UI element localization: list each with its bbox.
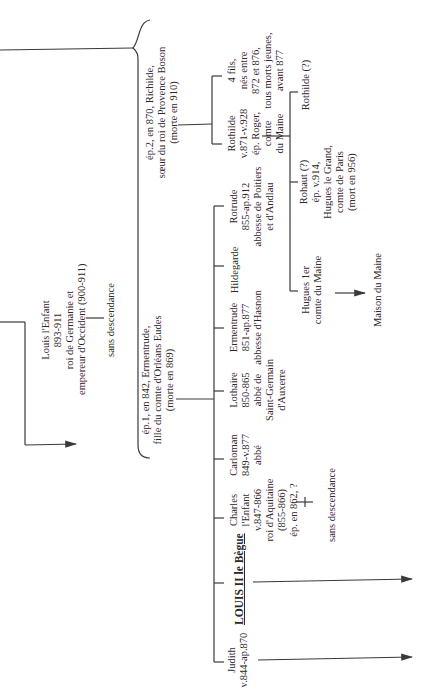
line: sœur du roi de Provence Boson [156, 40, 168, 185]
line: v.844-ap.870 [238, 625, 250, 695]
line: Hugues le Grand, [322, 132, 334, 232]
node-spouse-richilde: ép.2, en 870, Richilde, sœur du roi de P… [144, 40, 180, 185]
line: d'Auxerre [276, 355, 288, 425]
node-louis-l-enfant: Louis l'Enfant 893-911 roi de Germanie e… [40, 265, 88, 395]
line: et d'Andlau [264, 159, 276, 254]
line: ép. v.914, [310, 132, 322, 232]
line: Rothilde (?) [300, 55, 312, 115]
line: 851-ap.877 [240, 285, 252, 370]
dates: 893-911 [52, 265, 64, 395]
line: v.847-866 [252, 475, 264, 545]
line: (morte en 869) [164, 305, 176, 455]
line: 849-v.877 [240, 430, 252, 480]
line: roi d'Aquitaine [264, 475, 276, 545]
node-judith: Judith v.844-ap.870 [226, 625, 250, 695]
line: Carloman [228, 430, 240, 480]
line: avant 877 [274, 23, 286, 118]
line: abbé [252, 430, 264, 480]
line: abbesse d'Hasnon [252, 285, 264, 370]
line: comte de Paris [334, 132, 346, 232]
line: (mort en 956) [346, 132, 358, 232]
title: roi de Germanie et [64, 265, 76, 395]
line: (855-866) [276, 475, 288, 545]
line: 855-ap.912 [240, 159, 252, 254]
node-hugues-1er: Hugues 1er comte du Maine [300, 250, 324, 330]
line: Hugues 1er [300, 250, 312, 330]
line: abbesse de Poitiers [252, 159, 264, 254]
line: Rotrude [228, 159, 240, 254]
line: Saint-Germain [264, 355, 276, 425]
node-quatre-fils: 4 fils, nés entre 872 et 876, tous morts… [226, 23, 286, 118]
node-spouse-ermentrude: ép.1, en 842, Ermentrude, fille du comte… [140, 305, 176, 455]
line: ép.2, en 870, Richilde, [144, 40, 156, 185]
line: comte du Maine [312, 250, 324, 330]
line: LOUIS II le Bègue [233, 535, 245, 625]
line: 872 et 876, [250, 23, 262, 118]
node-rotrude: Rotrude 855-ap.912 abbesse de Poitiers e… [228, 159, 276, 254]
line: Judith [226, 625, 238, 695]
line: nés entre [238, 23, 250, 118]
note-sans-descendance-charles: sans descendance [326, 465, 338, 545]
node-louis-ii-le-begue: LOUIS II le Bègue [233, 535, 245, 625]
line: l'Enfant [240, 475, 252, 545]
node-maison-du-maine: Maison du Maine [372, 250, 384, 330]
line: tous morts jeunes, [262, 23, 274, 118]
node-rothilde-2: Rothilde (?) [300, 55, 312, 115]
line: 4 fils, [226, 23, 238, 118]
line: Rohaut (?) [298, 132, 310, 232]
line: ép. en 862, ? [288, 475, 300, 545]
line: (morte en 910) [168, 40, 180, 185]
line: fille du comte d'Orléans Eudes [152, 305, 164, 455]
node-charles-l-enfant: Charles l'Enfant v.847-866 roi d'Aquitai… [228, 475, 300, 545]
node-rohaut: Rohaut (?) ép. v.914, Hugues le Grand, c… [298, 132, 358, 232]
name: Louis l'Enfant [40, 265, 52, 395]
title-2: empereur d'Occident (900-911) [76, 265, 88, 395]
line: ép.1, en 842, Ermentrude, [140, 305, 152, 455]
note-sans-descendance-louis: sans descendance [105, 275, 117, 365]
node-carloman: Carloman 849-v.877 abbé [228, 430, 264, 480]
line: Charles [228, 475, 240, 545]
